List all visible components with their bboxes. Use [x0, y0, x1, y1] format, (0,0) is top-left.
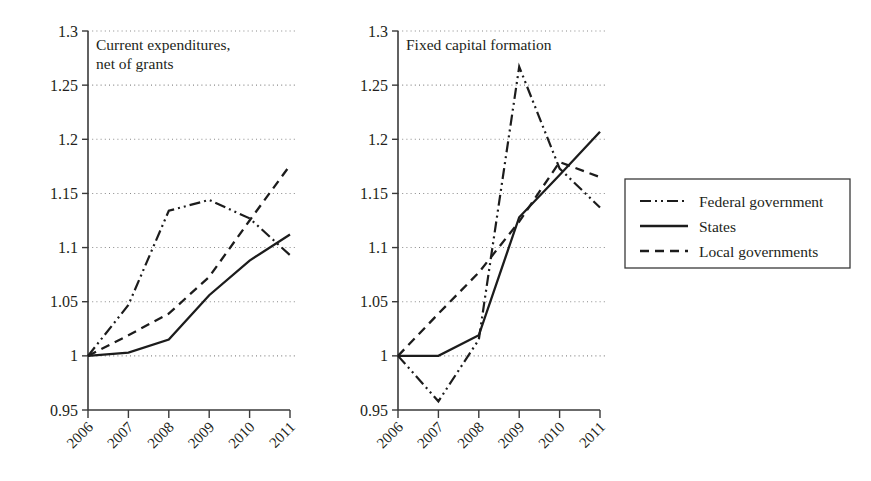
left-y-ticks: [82, 31, 88, 410]
y-tick-label: 1.25: [360, 77, 388, 94]
y-tick-label: 1.05: [50, 293, 78, 310]
y-tick-label: 0.95: [50, 402, 78, 419]
x-tick-label: 2011: [266, 419, 298, 451]
right-x-tick-labels: 200620072008200920102011: [374, 418, 609, 451]
y-tick-label: 1.3: [58, 23, 78, 40]
x-tick-label: 2010: [225, 419, 258, 452]
x-tick-label: 2008: [144, 419, 177, 452]
series-line-federal-government: [88, 200, 290, 356]
panel-left: 0.9511.051.11.151.21.251.3 2006200720082…: [50, 23, 298, 452]
two-panel-line-chart-figure: 0.9511.051.11.151.21.251.3 2006200720082…: [0, 0, 871, 481]
y-tick-label: 1: [380, 347, 388, 364]
series-legend: Federal governmentStatesLocal government…: [625, 179, 850, 268]
panel-title-line: net of grants: [96, 55, 173, 72]
x-tick-label: 2011: [576, 419, 608, 451]
y-tick-label: 1.1: [58, 239, 78, 256]
x-tick-label: 2008: [454, 419, 487, 452]
x-tick-label: 2009: [495, 419, 528, 452]
panel-title-line: Fixed capital formation: [406, 36, 552, 53]
x-tick-label: 2007: [414, 418, 447, 451]
right-panel-title: Fixed capital formation: [406, 36, 552, 53]
y-tick-label: 1.05: [360, 293, 388, 310]
y-tick-label: 1.25: [50, 77, 78, 94]
left-x-ticks: [88, 410, 290, 418]
x-tick-label: 2010: [535, 419, 568, 452]
right-y-tick-labels: 0.9511.051.11.151.21.251.3: [360, 23, 388, 419]
x-tick-label: 2006: [64, 418, 97, 451]
y-tick-label: 1.15: [360, 185, 388, 202]
x-tick-label: 2006: [374, 418, 407, 451]
series-line-federal-government: [398, 67, 600, 402]
left-gridlines: [88, 31, 298, 356]
y-tick-label: 1.2: [368, 131, 388, 148]
right-gridlines: [398, 31, 608, 356]
left-panel-title: Current expenditures,net of grants: [96, 36, 230, 72]
y-tick-label: 1.2: [58, 131, 78, 148]
x-tick-label: 2007: [104, 418, 137, 451]
right-x-ticks: [398, 410, 600, 418]
legend-label: States: [699, 218, 736, 235]
right-y-ticks: [392, 31, 398, 410]
legend-label: Federal government: [699, 193, 824, 210]
panel-right: 0.9511.051.11.151.21.251.3 2006200720082…: [360, 23, 608, 452]
left-x-tick-labels: 200620072008200920102011: [64, 418, 299, 451]
y-tick-label: 1.3: [368, 23, 388, 40]
chart-svg: 0.9511.051.11.151.21.251.3 2006200720082…: [0, 0, 871, 481]
y-tick-label: 0.95: [360, 402, 388, 419]
series-line-states: [88, 235, 290, 356]
panel-title-line: Current expenditures,: [96, 36, 230, 53]
y-tick-label: 1.15: [50, 185, 78, 202]
right-series-lines: [398, 67, 600, 402]
x-tick-label: 2009: [185, 419, 218, 452]
left-y-tick-labels: 0.9511.051.11.151.21.251.3: [50, 23, 78, 419]
legend-label: Local governments: [699, 243, 818, 260]
y-tick-label: 1: [70, 347, 78, 364]
series-line-local-governments: [398, 162, 600, 356]
y-tick-label: 1.1: [368, 239, 388, 256]
